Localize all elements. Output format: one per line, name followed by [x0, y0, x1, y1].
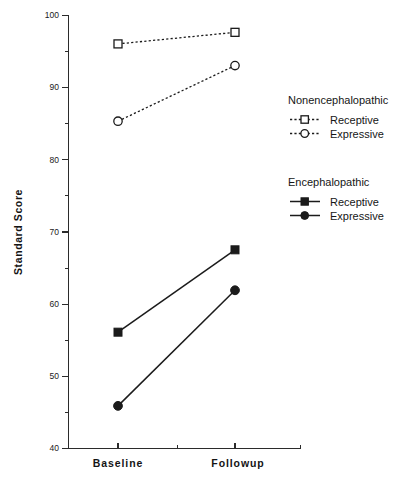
- series-enc-expressive-line: [118, 290, 235, 406]
- y-tick-label-80: 80: [50, 155, 60, 165]
- legend-label-nonenc-receptive: Receptive: [330, 114, 379, 126]
- x-axis-ticks: Baseline Followup: [93, 443, 300, 469]
- series-nonenc-receptive: [114, 28, 239, 48]
- y-axis-ticks: 100 90 80 70 60 50 40: [45, 10, 69, 453]
- y-axis-title: Standard Score: [12, 189, 24, 275]
- y-tick-label-70: 70: [50, 227, 60, 237]
- series-enc-expressive-marker-followup: [231, 286, 240, 295]
- series-enc-expressive-marker-baseline: [114, 401, 123, 410]
- legend-swatch-marker-open-circle: [301, 130, 309, 138]
- series-enc-receptive: [114, 246, 239, 336]
- legend-entry-nonenc-receptive[interactable]: Receptive: [290, 114, 379, 126]
- series-nonenc-expressive-marker-baseline: [114, 117, 122, 125]
- chart-container: Standard Score 100 90 80 70 60 50 40: [0, 0, 410, 479]
- legend-entry-enc-expressive[interactable]: Expressive: [290, 210, 384, 222]
- legend-group-nonencephalopathic: Nonencephalopathic Receptive Expressive: [288, 94, 389, 140]
- legend-entry-enc-receptive[interactable]: Receptive: [290, 196, 379, 208]
- legend-label-nonenc-expressive: Expressive: [330, 128, 384, 140]
- legend-label-enc-receptive: Receptive: [330, 196, 379, 208]
- series-nonenc-expressive: [114, 61, 239, 125]
- y-tick-label-50: 50: [50, 371, 60, 381]
- series-nonenc-expressive-line: [118, 66, 235, 122]
- series-enc-expressive: [114, 286, 240, 410]
- legend-group-title-nonencephalopathic: Nonencephalopathic: [288, 94, 389, 106]
- line-chart: Standard Score 100 90 80 70 60 50 40: [0, 0, 410, 479]
- series-enc-receptive-line: [118, 250, 235, 332]
- legend-group-title-encephalopathic: Encephalopathic: [288, 176, 370, 188]
- legend-group-encephalopathic: Encephalopathic Receptive Expressive: [288, 176, 384, 222]
- series-enc-receptive-marker-baseline: [114, 328, 122, 336]
- series-nonenc-receptive-line: [118, 32, 235, 44]
- y-tick-label-60: 60: [50, 299, 60, 309]
- series-enc-receptive-marker-followup: [231, 246, 239, 254]
- series-nonenc-expressive-marker-followup: [231, 61, 239, 69]
- y-tick-label-90: 90: [50, 82, 60, 92]
- legend-swatch-marker-filled-square: [301, 198, 308, 205]
- y-tick-label-100: 100: [45, 10, 59, 20]
- legend-swatch-marker-open-square: [301, 116, 308, 123]
- x-tick-label-baseline: Baseline: [93, 457, 143, 469]
- series-nonenc-receptive-marker-baseline: [114, 40, 122, 48]
- series-nonenc-receptive-marker-followup: [231, 28, 239, 36]
- legend-entry-nonenc-expressive[interactable]: Expressive: [290, 128, 384, 140]
- x-tick-label-followup: Followup: [211, 457, 264, 469]
- legend-swatch-marker-filled-circle: [301, 212, 309, 220]
- legend-label-enc-expressive: Expressive: [330, 210, 384, 222]
- y-tick-label-40: 40: [50, 443, 60, 453]
